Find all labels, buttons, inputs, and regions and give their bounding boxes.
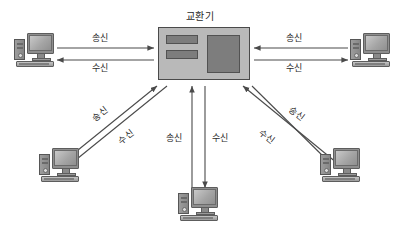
pc-bay-icon [181, 201, 187, 203]
switch-slot-2 [166, 50, 198, 59]
pc-keys-icon [355, 63, 385, 65]
switch-module [207, 35, 240, 73]
pc-power-icon [43, 168, 48, 173]
switch-device [158, 27, 250, 80]
pc-bay-icon [17, 47, 23, 49]
network-diagram: 교환기 [0, 0, 406, 225]
pc-keys-icon [19, 63, 49, 65]
pc-tower-icon [14, 39, 25, 60]
label-left-send: 송신 [92, 34, 109, 43]
pc-tower-icon [350, 39, 361, 60]
label-right-receive: 수신 [286, 64, 303, 73]
pc-keys-icon [44, 178, 74, 180]
pc-bay-icon [323, 158, 329, 160]
pc-screen-icon [54, 150, 77, 166]
label-right-send: 송신 [286, 34, 303, 43]
pc-bay-icon [181, 197, 187, 199]
pc-screen-icon [193, 189, 216, 205]
pc-power-icon [354, 53, 359, 58]
pc-bay-icon [353, 47, 359, 49]
pc-tower-icon [39, 154, 50, 175]
pc-power-icon [324, 168, 329, 173]
pc-bay-icon [323, 162, 329, 164]
computer-bottom-left [37, 148, 83, 184]
arrow-lower-left-receive [72, 86, 167, 163]
label-left-receive: 수신 [92, 64, 109, 73]
pc-power-icon [18, 53, 23, 58]
label-center-send: 송신 [166, 134, 183, 143]
switch-slot-1 [166, 35, 198, 44]
pc-screen-icon [335, 150, 358, 166]
pc-screen-icon [29, 35, 52, 51]
pc-keys-icon [183, 217, 213, 219]
label-center-receive: 수신 [212, 134, 229, 143]
pc-tower-icon [320, 154, 331, 175]
computer-top-left [12, 33, 58, 69]
pc-bay-icon [353, 43, 359, 45]
computer-bottom-center [176, 187, 222, 223]
pc-power-icon [182, 207, 187, 212]
pc-screen-icon [365, 35, 388, 51]
computer-bottom-right [318, 148, 364, 184]
pc-bay-icon [17, 43, 23, 45]
pc-keys-icon [325, 178, 355, 180]
pc-tower-icon [178, 193, 189, 214]
pc-bay-icon [42, 158, 48, 160]
computer-top-right [348, 33, 394, 69]
switch-title: 교환기 [186, 8, 214, 23]
pc-bay-icon [42, 162, 48, 164]
